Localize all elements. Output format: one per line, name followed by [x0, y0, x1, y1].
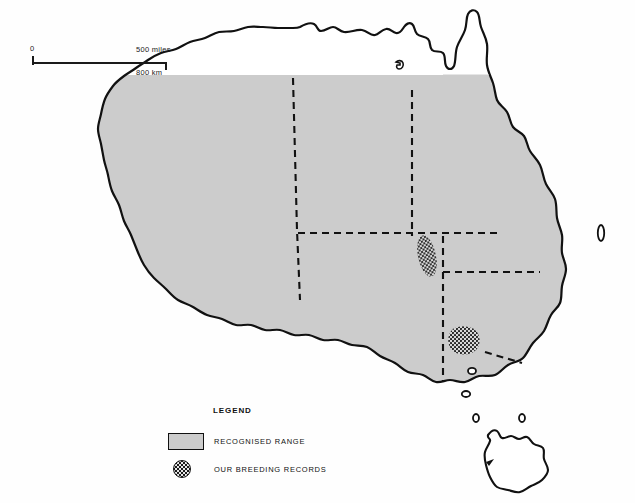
king-island	[473, 414, 479, 422]
gulf-inlet	[396, 61, 403, 69]
breeding-records-swatch	[173, 460, 191, 478]
flinders-island	[519, 414, 525, 422]
legend-item-recognised-range: RECOGNISED RANGE	[168, 433, 398, 455]
legend-title: LEGEND	[213, 406, 252, 415]
scale-bar-line	[32, 62, 167, 64]
scale-bar: 0 500 miles 800 km	[32, 46, 172, 80]
breeding-patch-murray-region	[448, 326, 479, 354]
recognised-range-swatch	[168, 433, 204, 450]
fraser-island	[598, 225, 604, 241]
gulf-island	[468, 368, 476, 374]
legend: LEGEND RECOGNISED RANGE OUR BREEDING REC…	[168, 406, 398, 486]
kangaroo-island	[462, 391, 470, 397]
scale-label-miles: 500 miles	[136, 45, 171, 54]
scale-label-zero: 0	[30, 44, 34, 53]
scale-label-km: 800 km	[136, 68, 162, 77]
legend-label-breeding-records: OUR BREEDING RECORDS	[214, 465, 327, 474]
legend-item-breeding-records: OUR BREEDING RECORDS	[168, 460, 398, 482]
tasmania	[485, 430, 548, 492]
map-page: 0 500 miles 800 km LEGEND RECOGNISED RAN…	[0, 0, 635, 503]
legend-label-recognised-range: RECOGNISED RANGE	[214, 437, 305, 446]
scale-tick-end	[165, 62, 167, 70]
